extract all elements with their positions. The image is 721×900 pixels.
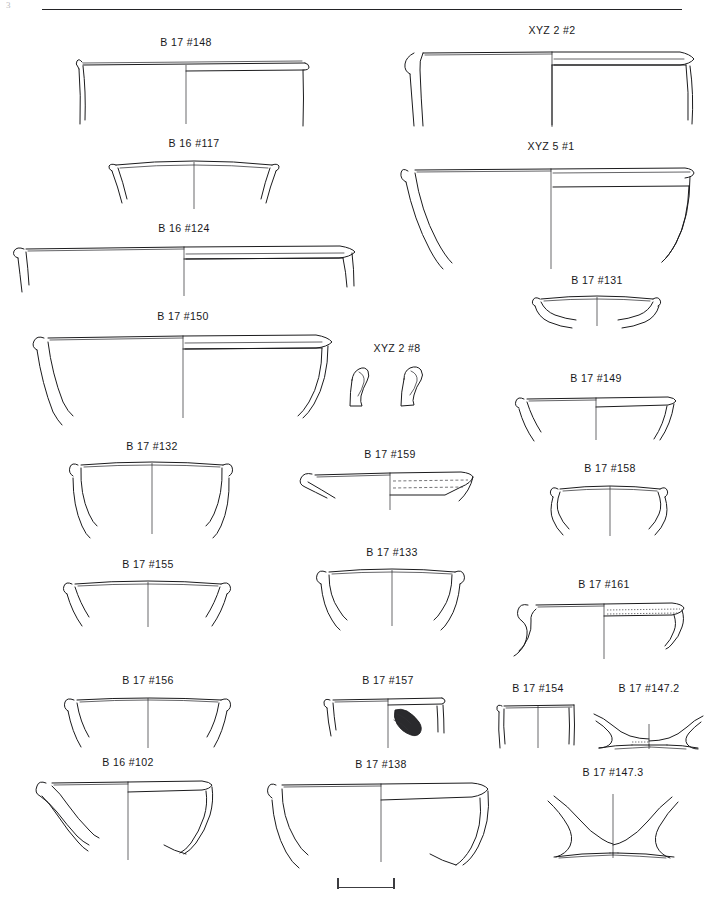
figure-label: B 17 #138: [275, 758, 487, 771]
figure-b17-149: B 17 #149: [510, 372, 682, 444]
scale-bar-line: [337, 887, 395, 888]
figure-b16-124: B 16 #124: [8, 222, 360, 302]
figure-label: B 17 #161: [521, 578, 687, 591]
scale-bar-tick: [337, 878, 339, 889]
figure-label: XYZ 5 #1: [412, 140, 690, 153]
figure-label: B 17 #150: [39, 310, 328, 323]
figure-label: B 16 #124: [22, 222, 346, 235]
figure-b17-159: B 17 #159: [298, 448, 482, 516]
figure-label: B 17 #131: [528, 274, 666, 287]
figure-label: B 17 #148: [72, 36, 300, 49]
figure-b17-155: B 17 #155: [58, 558, 238, 632]
figure-drawing: [342, 364, 452, 414]
figure-label: B 17 #132: [69, 440, 235, 453]
figure-xyz2-8: XYZ 2 #8: [342, 342, 452, 414]
figure-drawing: [510, 388, 682, 444]
pottery-plate: 3 B 17 #148 XYZ 2 #2: [0, 0, 721, 900]
figure-drawing: [490, 698, 586, 754]
header-rule: [42, 9, 682, 10]
figure-b17-156: B 17 #156: [58, 674, 238, 752]
figure-xyz5-1: XYZ 5 #1: [400, 140, 702, 275]
figure-b17-150: B 17 #150: [26, 310, 340, 422]
figure-label: B 17 #147.3: [537, 766, 690, 779]
figure-drawing: [402, 40, 702, 129]
figure-label: B 16 #102: [40, 756, 217, 769]
figure-label: B 17 #149: [517, 372, 675, 385]
figure-b17-161: B 17 #161: [514, 578, 694, 663]
figure-drawing: [530, 786, 696, 864]
figure-drawing: [318, 690, 458, 752]
figure-b17-157: B 17 #157: [318, 674, 458, 752]
figure-drawing: [96, 153, 292, 217]
figure-b17-131: B 17 #131: [522, 274, 672, 332]
figure-b17-158: B 17 #158: [540, 462, 680, 540]
figure-label: B 17 #156: [65, 674, 231, 687]
scale-bar-tick: [393, 878, 395, 889]
figure-drawing: [590, 702, 708, 754]
figure-drawing: [298, 464, 482, 516]
figure-label: B 17 #133: [318, 546, 465, 559]
figure-drawing: [62, 456, 242, 538]
plate-corner-mark: 3: [6, 0, 11, 10]
figure-label: B 17 #158: [546, 462, 675, 475]
figure-drawing: [58, 690, 238, 752]
figure-b17-148: B 17 #148: [62, 36, 310, 128]
figure-xyz2-2: XYZ 2 #2: [402, 24, 702, 129]
figure-drawing: [400, 157, 702, 275]
figure-label: B 17 #157: [324, 674, 453, 687]
figure-label: B 17 #155: [65, 558, 231, 571]
figure-drawing: [62, 52, 310, 128]
figure-label: XYZ 2 #8: [346, 342, 447, 355]
figure-b17-147-3: B 17 #147.3: [530, 766, 696, 864]
figure-label: B 17 #159: [305, 448, 474, 461]
figure-label: XYZ 2 #2: [414, 24, 690, 37]
figure-drawing: [8, 238, 360, 302]
figure-label: B 17 #154: [494, 682, 582, 695]
figure-b17-138: B 17 #138: [266, 758, 496, 866]
figure-label: B 16 #117: [104, 137, 284, 150]
figure-drawing: [58, 574, 238, 632]
figure-b16-117: B 16 #117: [96, 137, 292, 217]
figure-b17-133: B 17 #133: [312, 546, 472, 630]
figure-drawing: [32, 772, 224, 864]
figure-b16-102: B 16 #102: [32, 756, 224, 864]
figure-drawing: [26, 326, 340, 422]
figure-b17-154: B 17 #154: [490, 682, 586, 754]
figure-b17-147-2: B 17 #147.2: [590, 682, 708, 754]
figure-drawing: [540, 478, 680, 540]
figure-drawing: [312, 562, 472, 630]
figure-b17-132: B 17 #132: [62, 440, 242, 538]
figure-drawing: [522, 290, 672, 332]
figure-drawing: [266, 774, 496, 866]
scale-bar: [337, 878, 395, 890]
figure-drawing: [514, 594, 694, 663]
figure-label: B 17 #147.2: [595, 682, 704, 695]
